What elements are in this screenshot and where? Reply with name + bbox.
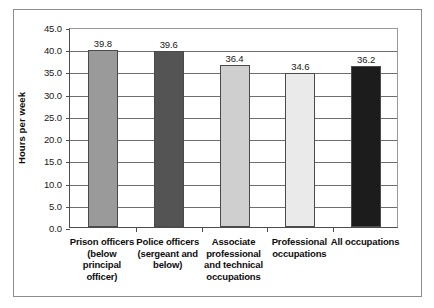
x-axis-tick <box>136 227 137 232</box>
x-axis-category-label-group: Prison officers(belowprincipalofficer)Po… <box>69 236 398 294</box>
y-axis-tick-label: 15.0 <box>24 156 62 167</box>
y-axis-tick-label: 5.0 <box>24 200 62 211</box>
bar <box>220 65 250 227</box>
x-axis-category-label-line: professional <box>198 248 270 260</box>
x-axis-category-label-line: officer) <box>66 271 138 283</box>
bar-value-label: 39.8 <box>94 38 112 49</box>
y-axis-tick-label: 25.0 <box>24 111 62 122</box>
x-axis-category-label: Professionaloccupations <box>263 236 335 259</box>
y-axis-tick-label: 35.0 <box>24 67 62 78</box>
x-axis-category-label-line: Associate <box>198 236 270 248</box>
bar <box>285 73 315 227</box>
x-axis-category-label: Prison officers(belowprincipalofficer) <box>66 236 138 282</box>
bar-value-label: 34.6 <box>291 61 309 72</box>
y-axis-tick <box>66 229 70 230</box>
bar <box>351 66 381 227</box>
x-axis-category-label-line: principal <box>66 259 138 271</box>
x-axis-category-label: Associateprofessionaland technicaloccupa… <box>198 236 270 282</box>
y-axis-tick-label: 0.0 <box>24 223 62 234</box>
y-axis-tick-label: 10.0 <box>24 178 62 189</box>
bar-value-label: 36.4 <box>225 53 243 64</box>
bar <box>154 51 184 227</box>
y-axis-tick-label: 30.0 <box>24 89 62 100</box>
y-axis-tick <box>66 29 70 30</box>
x-axis-category-label-line: Prison officers <box>66 236 138 248</box>
y-axis-tick <box>66 73 70 74</box>
x-axis-category-label-line: (sergeant and <box>132 248 204 260</box>
x-axis-tick <box>333 227 334 232</box>
x-axis-category-label: All occupations <box>329 236 401 248</box>
x-axis-category-label-line: and technical <box>198 259 270 271</box>
x-axis-category-label-line: occupations <box>263 248 335 260</box>
x-axis-tick <box>267 227 268 232</box>
y-axis-tick <box>66 207 70 208</box>
x-axis-category-label-line: occupations <box>198 271 270 283</box>
bar <box>88 50 118 227</box>
y-axis-tick <box>66 185 70 186</box>
y-axis-tick <box>66 140 70 141</box>
x-axis-category-label-line: (below <box>66 248 138 260</box>
y-axis-tick <box>66 118 70 119</box>
y-axis-tick <box>66 96 70 97</box>
gridline <box>70 51 397 52</box>
x-axis-category-label-line: below) <box>132 259 204 271</box>
bar-value-label: 39.6 <box>160 39 178 50</box>
x-axis-category-label-line: All occupations <box>329 236 401 248</box>
bar-value-label: 36.2 <box>357 54 375 65</box>
x-axis-category-label: Police officers(sergeant andbelow) <box>132 236 204 271</box>
plot-area: 39.839.636.434.636.2 <box>69 28 398 228</box>
y-axis-tick <box>66 51 70 52</box>
y-axis-title: Hours per week <box>16 92 27 164</box>
y-axis-tick-label: 20.0 <box>24 134 62 145</box>
x-axis-category-label-line: Police officers <box>132 236 204 248</box>
x-axis-category-label-line: Professional <box>263 236 335 248</box>
y-axis-tick <box>66 162 70 163</box>
y-axis-tick-label: 40.0 <box>24 45 62 56</box>
x-axis-tick <box>202 227 203 232</box>
y-axis-tick-label: 45.0 <box>24 23 62 34</box>
